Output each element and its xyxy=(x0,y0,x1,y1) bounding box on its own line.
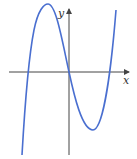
x-axis-label: x xyxy=(123,74,130,87)
y-axis-label: y xyxy=(57,7,65,20)
function-graph: y x xyxy=(0,0,137,159)
